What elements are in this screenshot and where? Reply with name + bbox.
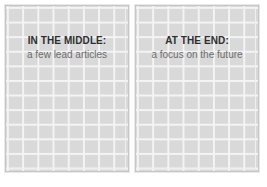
grid-panel-right: AT THE END: a focus on the future bbox=[135, 5, 259, 172]
two-page-spread: IN THE MIDDLE: a few lead articles AT TH… bbox=[5, 5, 259, 172]
caption-subtitle-right: a focus on the future bbox=[136, 50, 258, 61]
grid-lines-right bbox=[136, 6, 258, 171]
caption-heading-right: AT THE END: bbox=[136, 36, 258, 47]
graphic-canvas: IN THE MIDDLE: a few lead articles AT TH… bbox=[0, 0, 267, 187]
caption-subtitle-left: a few lead articles bbox=[6, 50, 128, 61]
caption-heading-left: IN THE MIDDLE: bbox=[6, 36, 128, 47]
grid-lines-left bbox=[6, 6, 128, 171]
caption-right: AT THE END: a focus on the future bbox=[136, 36, 258, 61]
panel-inner-edge-left bbox=[8, 8, 126, 169]
panel-inner-edge-right bbox=[138, 8, 256, 169]
caption-left: IN THE MIDDLE: a few lead articles bbox=[6, 36, 128, 61]
grid-panel-left: IN THE MIDDLE: a few lead articles bbox=[5, 5, 129, 172]
